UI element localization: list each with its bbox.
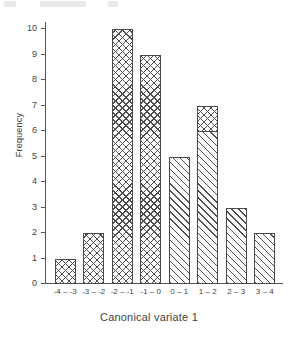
x-axis-tick-label: 0 – 1 — [165, 288, 194, 296]
y-axis-line — [45, 22, 46, 284]
plot-area: 012345678910 -4 – -3-3 – -2-2 – -1-1 – 0… — [45, 22, 283, 284]
y-axis-tick — [41, 156, 45, 157]
x-axis-tick-label: -1 – 0 — [137, 288, 166, 296]
y-axis-tick-label: 2 — [15, 228, 37, 237]
x-axis-tick-label: -2 – -1 — [108, 288, 137, 296]
y-axis-tick — [41, 28, 45, 29]
y-axis-tick — [41, 79, 45, 80]
bar-segment-crosshatch — [198, 107, 217, 133]
x-axis-tick-label: 2 – 3 — [222, 288, 251, 296]
y-axis-tick — [41, 283, 45, 284]
y-axis-tick — [41, 181, 45, 182]
x-axis-tick-label: 3 – 4 — [251, 288, 280, 296]
bar-segment-diagonal — [198, 130, 217, 283]
histogram-bar — [112, 29, 133, 284]
histogram-bar — [197, 106, 218, 285]
y-axis-tick-label: 8 — [15, 75, 37, 84]
y-axis-tick — [41, 258, 45, 259]
scan-artifact — [108, 1, 118, 7]
y-axis-tick-label: 6 — [15, 126, 37, 135]
x-axis-line — [45, 283, 283, 284]
y-axis-tick-label: 10 — [15, 24, 37, 33]
y-axis-tick-label: 9 — [15, 50, 37, 59]
x-axis-tick-label: -3 – -2 — [80, 288, 109, 296]
scan-artifact — [4, 1, 16, 7]
y-axis-tick-label: 1 — [15, 254, 37, 263]
y-axis-tick-label: 3 — [15, 203, 37, 212]
scan-artifact — [40, 1, 86, 7]
x-axis-tick-label: -4 – -3 — [51, 288, 80, 296]
y-axis-tick — [41, 232, 45, 233]
y-axis-tick — [41, 54, 45, 55]
x-axis-label: Canonical variate 1 — [0, 311, 298, 323]
histogram-bar — [226, 208, 247, 285]
y-axis-tick — [41, 207, 45, 208]
histogram-figure: Frequency 012345678910 -4 – -3-3 – -2-2 … — [0, 0, 298, 339]
histogram-bar — [169, 157, 190, 285]
y-axis-tick-label: 7 — [15, 101, 37, 110]
y-axis-tick-label: 4 — [15, 177, 37, 186]
y-axis-tick-label: 5 — [15, 152, 37, 161]
y-axis-tick — [41, 105, 45, 106]
histogram-bar — [55, 259, 76, 285]
y-axis-tick-label: 0 — [15, 279, 37, 288]
histogram-bar — [83, 233, 104, 284]
y-axis-tick — [41, 130, 45, 131]
histogram-bar — [140, 55, 161, 285]
histogram-bar — [254, 233, 275, 284]
x-axis-tick-label: 1 – 2 — [194, 288, 223, 296]
